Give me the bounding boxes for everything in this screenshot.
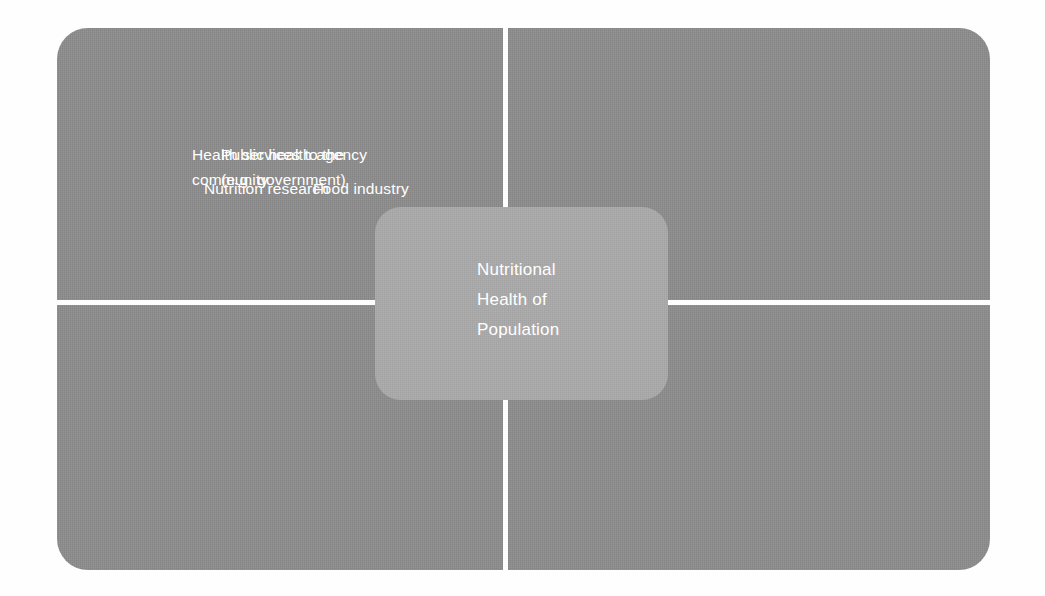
center-hub-label: Nutritional Health of Population	[477, 255, 559, 345]
quadrant-label-food-industry: Food industry	[313, 176, 553, 201]
quadrant-matrix-plate: Health services to the community Public …	[57, 28, 990, 570]
center-hub-node[interactable]: Nutritional Health of Population	[375, 207, 668, 400]
diagram-canvas: Health services to the community Public …	[0, 0, 1045, 596]
